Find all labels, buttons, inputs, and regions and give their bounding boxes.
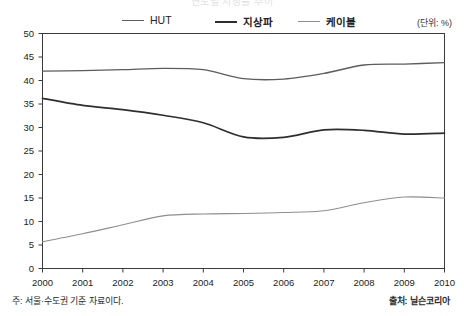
plot-frame (43, 34, 445, 269)
chart-container: 연도별 시청률 추이 HUT 지상파 케이블 (단위: %) 504540353… (0, 0, 464, 316)
y-axis-tick-label: 5 (8, 239, 34, 250)
x-axis-ticks (43, 269, 445, 273)
y-axis-tick-label: 40 (8, 75, 34, 86)
x-axis-tick-label: 2002 (103, 277, 143, 288)
data-series-lines (43, 63, 445, 242)
x-axis-tick-label: 2009 (384, 277, 424, 288)
y-axis-tick-label: 25 (8, 145, 34, 156)
y-axis-tick-label: 50 (8, 28, 34, 39)
series-line-hut (43, 63, 445, 80)
x-axis-tick-label: 2000 (23, 277, 63, 288)
y-axis-tick-label: 0 (8, 263, 34, 274)
x-axis-tick-label: 2006 (264, 277, 304, 288)
plot-svg (0, 0, 464, 316)
x-axis-tick-label: 2008 (344, 277, 384, 288)
y-axis-tick-label: 35 (8, 98, 34, 109)
series-line-cable (43, 197, 445, 242)
x-axis-tick-label: 2004 (183, 277, 223, 288)
chart-source: 출처: 닐슨코리아 (389, 294, 451, 307)
x-axis-tick-label: 2010 (425, 277, 464, 288)
x-axis-tick-label: 2001 (63, 277, 103, 288)
x-axis-tick-label: 2007 (304, 277, 344, 288)
y-axis-tick-label: 30 (8, 122, 34, 133)
y-axis-tick-label: 45 (8, 51, 34, 62)
x-axis-tick-label: 2003 (143, 277, 183, 288)
y-axis-ticks (39, 34, 43, 269)
plot-area: 50454035302520151050 2000200120022003200… (0, 0, 464, 316)
chart-footnote: 주: 서울·수도권 기준 자료이다. (12, 294, 124, 307)
y-axis-tick-label: 15 (8, 192, 34, 203)
x-axis-tick-label: 2005 (224, 277, 264, 288)
y-axis-tick-label: 20 (8, 169, 34, 180)
y-axis-tick-label: 10 (8, 216, 34, 227)
series-line-terrestrial (43, 98, 445, 138)
